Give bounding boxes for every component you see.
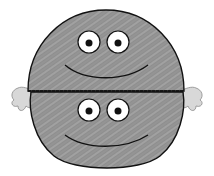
top-half (28, 10, 184, 91)
bottom-half (30, 92, 183, 168)
split-smiley-illustration (0, 0, 214, 176)
bottom-left-eye (78, 99, 100, 121)
top-left-eye (78, 31, 100, 53)
top-right-eye (107, 31, 129, 53)
bottom-right-eye (107, 99, 129, 121)
